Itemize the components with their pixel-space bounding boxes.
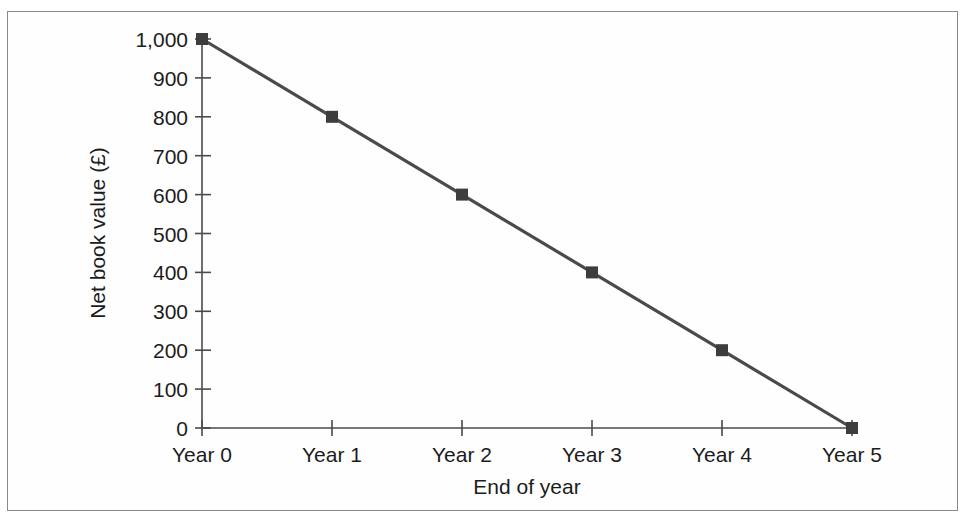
- y-tick-label: 400: [153, 261, 188, 284]
- y-tick-label: 700: [153, 145, 188, 168]
- y-tick-label: 300: [153, 300, 188, 323]
- line-chart-canvas: 0 100 200 300 400 500 600 700 800 900 1,…: [0, 0, 969, 524]
- y-tick-label: 900: [153, 67, 188, 90]
- y-tick-label: 600: [153, 184, 188, 207]
- chart-figure: 0 100 200 300 400 500 600 700 800 900 1,…: [0, 0, 969, 524]
- y-tick-label: 0: [176, 417, 188, 440]
- y-tick-label: 200: [153, 339, 188, 362]
- x-tick-label: Year 0: [172, 443, 232, 466]
- x-tick-label: Year 3: [562, 443, 622, 466]
- y-tick-label: 500: [153, 223, 188, 246]
- series-line-net-book-value: [202, 39, 852, 428]
- data-point-marker: [196, 33, 208, 45]
- data-point-marker: [716, 344, 728, 356]
- x-axis-title: End of year: [473, 475, 580, 498]
- data-point-marker: [456, 189, 468, 201]
- data-point-marker: [326, 111, 338, 123]
- y-tick-label: 800: [153, 106, 188, 129]
- x-tick-label: Year 4: [692, 443, 752, 466]
- x-tick-labels: Year 0 Year 1 Year 2 Year 3 Year 4 Year …: [172, 443, 882, 466]
- y-tick-label: 1,000: [135, 28, 188, 51]
- y-tick-labels: 0 100 200 300 400 500 600 700 800 900 1,…: [135, 28, 188, 440]
- y-axis-ticks: [195, 39, 211, 428]
- x-tick-label: Year 1: [302, 443, 362, 466]
- data-point-marker: [586, 266, 598, 278]
- y-tick-label: 100: [153, 378, 188, 401]
- y-axis-title: Net book value (£): [86, 147, 109, 319]
- x-tick-label: Year 5: [822, 443, 882, 466]
- x-tick-label: Year 2: [432, 443, 492, 466]
- data-point-marker: [846, 422, 858, 434]
